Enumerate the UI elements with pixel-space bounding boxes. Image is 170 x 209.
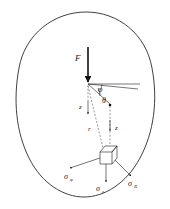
- label-angle-theta: θ: [102, 96, 106, 105]
- label-sigma-R: σ R: [128, 179, 137, 189]
- label-sigma-z-symbol: σ: [96, 184, 101, 193]
- label-sigma-phi-subscript: φ: [70, 177, 73, 182]
- label-coord-z-left: z: [78, 103, 82, 111]
- field-point-dot: [109, 104, 112, 107]
- label-sigma-z-subscript: z: [101, 189, 104, 194]
- phi-angle-wedge: [88, 84, 138, 90]
- diagram-svg: F φ θ z r z σ φ σ z σ R: [0, 0, 170, 209]
- elastic-body-outline: [16, 12, 155, 197]
- figure-canvas: F φ θ z r z σ φ σ z σ R: [0, 0, 170, 209]
- label-sigma-R-symbol: σ: [128, 179, 133, 188]
- label-sigma-R-subscript: R: [133, 184, 137, 189]
- label-coord-z-right: z: [114, 124, 118, 132]
- label-angle-phi: φ: [98, 85, 103, 94]
- sigma-phi-arrow: [70, 158, 100, 168]
- label-force-F: F: [74, 53, 81, 63]
- label-sigma-z: σ z: [96, 184, 104, 194]
- stress-element-cube: [100, 146, 117, 164]
- label-sigma-phi-symbol: σ: [64, 172, 69, 181]
- label-coord-r: r: [88, 125, 91, 133]
- sigma-R-arrow: [115, 160, 131, 176]
- label-sigma-phi: σ φ: [64, 172, 73, 182]
